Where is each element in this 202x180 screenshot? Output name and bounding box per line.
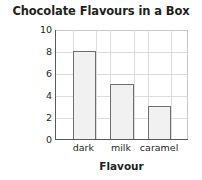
bar-milk: [110, 84, 133, 139]
x-tick-label-caramel: caramel: [140, 142, 178, 154]
plot-area: [55, 30, 188, 140]
y-tick-label-8: 8: [34, 47, 52, 57]
x-axis-label: Flavour: [55, 160, 188, 172]
y-tick-label-4: 4: [34, 91, 52, 101]
chart-title: Chocolate Flavours in a Box: [0, 4, 202, 18]
y-tick-label-6: 6: [34, 69, 52, 79]
bar-chart-figure: Chocolate Flavours in a Box No. of Choco…: [0, 0, 202, 180]
gridline-vertical: [134, 30, 135, 139]
bar-dark: [73, 51, 96, 139]
y-tick-label-0: 0: [34, 135, 52, 145]
bar-caramel: [148, 106, 171, 139]
y-tick-label-2: 2: [34, 113, 52, 123]
y-tick-label-10: 10: [34, 25, 52, 35]
gridline-vertical: [96, 30, 97, 139]
gridline-vertical: [187, 30, 188, 139]
gridline-horizontal: [56, 30, 188, 31]
gridline-vertical: [171, 30, 172, 139]
x-tick-label-dark: dark: [64, 142, 102, 154]
x-tick-label-milk: milk: [102, 142, 140, 154]
x-axis-tick-labels: darkmilkcaramel: [55, 142, 188, 156]
y-axis-tick-labels: 0246810: [30, 30, 52, 140]
